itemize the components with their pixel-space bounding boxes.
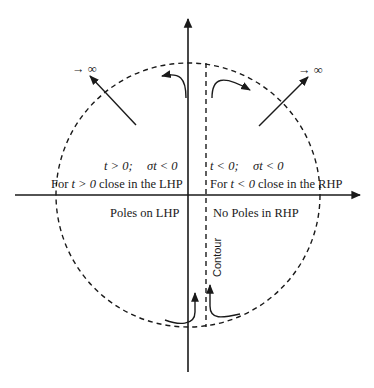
arrow-to-infinity-right	[259, 77, 308, 126]
poles-lhp-label: Poles on LHP	[110, 206, 180, 220]
arrow-to-infinity-left	[90, 76, 136, 125]
lhp-close-statement: For t > 0 close in the LHP	[51, 177, 183, 191]
curved-arrow-top-right	[212, 80, 250, 98]
infinity-label-right: → ∞	[298, 63, 323, 77]
curved-arrow-bottom-left	[165, 293, 195, 323]
infinity-label-left: → ∞	[72, 62, 97, 76]
rhp-close-statement: For t < 0 close in the RHP	[210, 177, 342, 191]
curved-arrow-top-left	[162, 75, 186, 98]
contour-label: Contour	[211, 238, 223, 277]
lhp-condition-t: t > 0;	[104, 159, 133, 173]
poles-rhp-label: No Poles in RHP	[213, 206, 299, 220]
lhp-condition-sigma: σt < 0	[147, 159, 178, 173]
curved-arrow-bottom-right	[210, 285, 240, 317]
contour-diagram: → ∞ → ∞ t > 0; σt < 0 t < 0; σt < 0 For …	[0, 0, 374, 388]
rhp-condition-t: t < 0;	[210, 159, 239, 173]
rhp-condition-sigma: σt < 0	[253, 159, 284, 173]
